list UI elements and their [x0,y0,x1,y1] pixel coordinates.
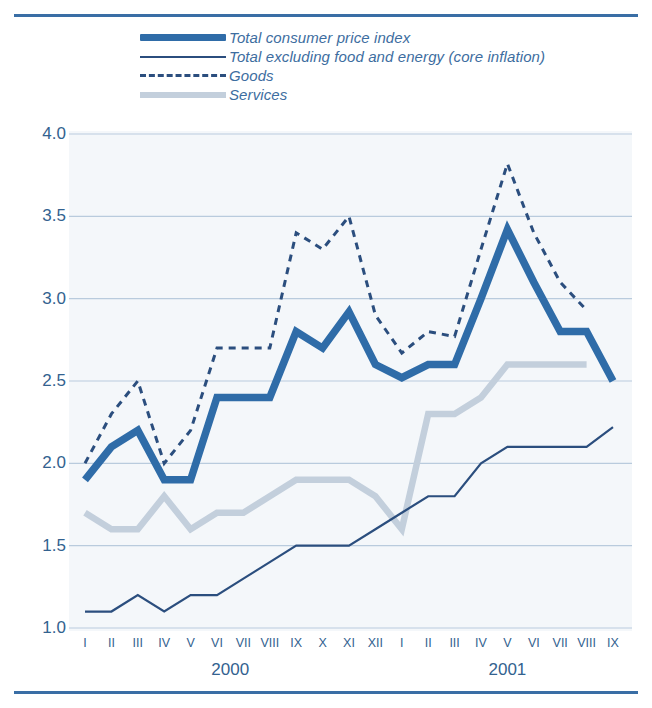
x-axis-tick-label: I [83,636,86,650]
legend-item-label: Goods [226,67,274,84]
x-axis-tick-label: IX [290,636,302,650]
x-axis-tick-label: III [449,636,459,650]
x-axis-year-labels: 20002001 [69,660,632,682]
x-axis-tick-label: VIII [260,636,279,650]
plot-area [69,131,632,631]
series-line-goods [85,164,587,464]
x-axis-tick-label: II [108,636,115,650]
x-axis-year-label: 2000 [211,660,249,680]
x-axis-tick-label: V [503,636,511,650]
legend-item: Services [140,85,640,104]
x-axis-tick-label: VII [553,636,568,650]
top-rule [14,14,638,17]
chart-svg [69,131,632,631]
x-axis-tick-label: VIII [577,636,596,650]
legend-line-sample [140,34,226,41]
bottom-rule [14,691,638,694]
x-axis-tick-label: V [186,636,194,650]
legend-swatch-thick [140,28,226,47]
x-axis-tick-label: VI [528,636,540,650]
legend-line-sample [140,74,226,77]
y-axis-tick-label: 2.0 [42,453,66,473]
y-axis: 4.03.53.02.52.01.51.0 [24,131,66,631]
legend-swatch-dashed [140,66,226,85]
series-line-cpi [85,230,613,480]
series-line-core [85,427,613,611]
legend-item-label: Total excluding food and energy (core in… [226,48,545,65]
x-axis-tick-label: VI [211,636,223,650]
legend-item: Total consumer price index [140,28,640,47]
chart-legend: Total consumer price indexTotal excludin… [140,28,640,104]
y-axis-tick-label: 1.0 [42,618,66,638]
x-axis: IIIIIIIVVVIVIIVIIIIXXXIXIIIIIIIIIVVVIVII… [69,636,632,656]
x-axis-year-label: 2001 [488,660,526,680]
x-axis-tick-label: XII [368,636,383,650]
x-axis-tick-label: I [400,636,403,650]
y-axis-tick-label: 2.5 [42,371,66,391]
x-axis-tick-label: VII [236,636,251,650]
figure-container: Total consumer price indexTotal excludin… [0,0,652,708]
legend-item-label: Total consumer price index [226,29,410,46]
x-axis-tick-label: III [133,636,143,650]
legend-line-sample [140,56,226,58]
y-axis-tick-label: 3.0 [42,289,66,309]
x-axis-tick-label: IV [158,636,170,650]
x-axis-tick-label: IX [607,636,619,650]
legend-line-sample [140,92,226,98]
legend-item: Total excluding food and energy (core in… [140,47,640,66]
x-axis-tick-label: X [318,636,326,650]
x-axis-tick-label: XI [343,636,355,650]
x-axis-tick-label: II [425,636,432,650]
x-axis-tick-label: IV [475,636,487,650]
y-axis-tick-label: 3.5 [42,206,66,226]
y-axis-tick-label: 1.5 [42,536,66,556]
legend-swatch-light [140,85,226,104]
y-axis-tick-label: 4.0 [42,124,66,144]
legend-swatch-thin [140,47,226,66]
legend-item-label: Services [226,86,287,103]
legend-item: Goods [140,66,640,85]
